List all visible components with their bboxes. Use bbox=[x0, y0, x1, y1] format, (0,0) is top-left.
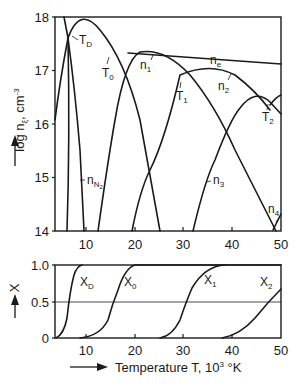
label-n-3: n3 bbox=[213, 173, 225, 189]
top-ytick-15: 15 bbox=[35, 170, 49, 185]
label-X-D: XD bbox=[80, 275, 94, 291]
curve-X-D bbox=[56, 265, 82, 338]
label-n-1: n1 bbox=[140, 58, 152, 74]
curve-n-e bbox=[128, 53, 281, 64]
svg-text:X: X bbox=[7, 283, 22, 292]
curve-n-1 bbox=[98, 51, 276, 231]
bottom-ytick-05: 0.5 bbox=[31, 295, 49, 310]
label-n-2: n2 bbox=[218, 79, 230, 95]
top-xtick-50: 50 bbox=[274, 237, 288, 252]
bottom-y-axis-label: X bbox=[7, 283, 22, 292]
top-ytick-16: 16 bbox=[35, 117, 49, 132]
label-T-2: T2 bbox=[262, 110, 274, 126]
label-X-0: X0 bbox=[124, 275, 137, 291]
label-T-1: T1 bbox=[176, 89, 188, 105]
curve-n-N2 bbox=[64, 17, 84, 231]
bottom-xtick-10: 10 bbox=[79, 343, 93, 358]
curve-n-3 bbox=[132, 69, 270, 232]
top-xtick-10: 10 bbox=[79, 237, 93, 252]
top-ytick-14: 14 bbox=[35, 224, 49, 239]
top-curves bbox=[55, 17, 281, 231]
bottom-chart: 1.0 0.5 0 10 20 30 40 50 X XD X0 bbox=[7, 258, 288, 375]
curve-X-2 bbox=[222, 289, 281, 338]
label-n-N2: nN2 bbox=[87, 173, 103, 190]
bottom-xtick-40: 40 bbox=[225, 343, 239, 358]
label-T-0: T0 bbox=[102, 66, 114, 82]
figure: 18 17 16 15 14 10 20 30 40 50 log nξ, cm… bbox=[0, 0, 300, 387]
bottom-curves bbox=[56, 265, 281, 338]
bottom-plot-frame bbox=[55, 265, 281, 338]
bottom-ytick-1: 1.0 bbox=[31, 258, 49, 273]
top-xtick-40: 40 bbox=[225, 237, 239, 252]
bottom-ytick-0: 0 bbox=[42, 331, 49, 346]
label-n-4: n4 bbox=[268, 202, 280, 218]
bottom-xtick-30: 30 bbox=[176, 343, 190, 358]
label-X-2: X2 bbox=[260, 275, 273, 291]
bottom-xtick-50: 50 bbox=[274, 343, 288, 358]
top-xtick-20: 20 bbox=[128, 237, 142, 252]
top-chart: 18 17 16 15 14 10 20 30 40 50 log nξ, cm… bbox=[11, 10, 288, 252]
curve-X-1 bbox=[160, 265, 225, 338]
top-ytick-17: 17 bbox=[35, 63, 49, 78]
label-T-D: TD bbox=[79, 33, 92, 49]
curve-n-0-rise bbox=[67, 38, 69, 231]
curve-X-0 bbox=[80, 265, 281, 338]
top-xtick-30: 30 bbox=[176, 237, 190, 252]
curve-n-D bbox=[55, 38, 68, 120]
top-ytick-18: 18 bbox=[35, 10, 49, 25]
bottom-xtick-20: 20 bbox=[128, 343, 142, 358]
bottom-y-arrow-icon bbox=[11, 294, 19, 318]
curve-n-3-tail bbox=[270, 95, 281, 105]
label-n-e: ne bbox=[210, 53, 222, 69]
x-axis-arrow-icon bbox=[70, 363, 108, 371]
label-X-1: X1 bbox=[204, 273, 217, 289]
x-axis-label: Temperature T, 103 °K bbox=[115, 360, 242, 375]
